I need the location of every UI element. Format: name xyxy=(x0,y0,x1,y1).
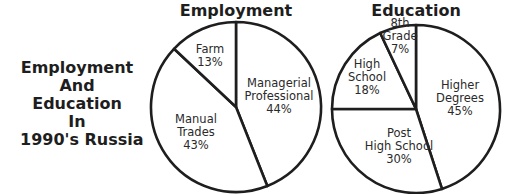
education-pie-chart: Education HigherDegrees45%PostHigh Schoo… xyxy=(332,1,500,193)
slice-name-label: Higher xyxy=(441,78,480,92)
slice-name-label: High xyxy=(354,57,380,71)
education-chart-title: Education xyxy=(371,1,461,20)
slice-name-label: 8th xyxy=(390,16,409,30)
slice-name-label: Degrees xyxy=(436,91,484,105)
slice-percent-label: 7% xyxy=(391,42,409,56)
slice-percent-label: 45% xyxy=(447,104,473,118)
slice-percent-label: 44% xyxy=(266,102,292,116)
slice-percent-label: 13% xyxy=(197,55,223,69)
slice-name-label: Professional xyxy=(244,89,313,103)
slice-percent-label: 30% xyxy=(386,152,412,166)
pie-charts: Employment ManagerialProfessional44%Manu… xyxy=(0,0,524,194)
slice-name-label: Managerial xyxy=(247,76,311,90)
slice-name-label: School xyxy=(348,70,386,84)
slice-name-label: High School xyxy=(365,139,433,153)
slice-name-label: Post xyxy=(387,126,412,140)
employment-chart-title: Employment xyxy=(180,1,293,20)
slice-name-label: Farm xyxy=(196,42,224,56)
employment-pie-chart: Employment ManagerialProfessional44%Manu… xyxy=(151,1,321,192)
slice-name-label: Grade xyxy=(382,29,417,43)
slice-name-label: Manual xyxy=(175,112,217,126)
slice-percent-label: 43% xyxy=(183,138,209,152)
slice-name-label: Trades xyxy=(176,125,214,139)
slice-percent-label: 18% xyxy=(354,83,380,97)
slice-label-farm: Farm13% xyxy=(196,42,224,69)
